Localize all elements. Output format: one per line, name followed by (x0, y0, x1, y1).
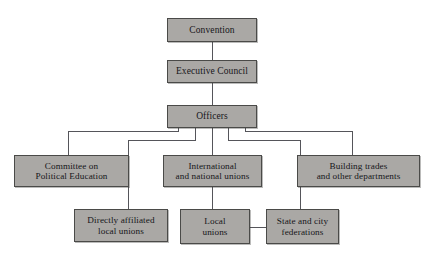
node-officers-label: Officers (168, 111, 256, 122)
node-committee-political-education[interactable]: Committee on Political Education (14, 155, 129, 187)
node-directly-affiliated-local-unions[interactable]: Directly affiliated local unions (74, 209, 168, 242)
org-chart: Convention Executive Council Officers Co… (0, 0, 434, 254)
node-state-city-federations-label: State and city federations (267, 216, 338, 237)
edge-officers-cope (68, 128, 178, 155)
node-state-city-federations[interactable]: State and city federations (266, 209, 339, 244)
node-building-trades-other-departments[interactable]: Building trades and other departments (297, 155, 420, 187)
node-committee-political-education-label: Committee on Political Education (15, 161, 128, 182)
edge-officers-building-trades (245, 128, 352, 155)
node-executive-council[interactable]: Executive Council (167, 60, 257, 83)
node-building-trades-other-departments-label: Building trades and other departments (298, 161, 419, 182)
node-convention[interactable]: Convention (167, 18, 257, 42)
node-convention-label: Convention (168, 25, 256, 36)
node-executive-council-label: Executive Council (168, 66, 256, 77)
node-officers[interactable]: Officers (167, 105, 257, 128)
node-international-national-unions[interactable]: International and national unions (163, 155, 262, 187)
node-local-unions[interactable]: Local unions (180, 209, 250, 244)
node-directly-affiliated-local-unions-label: Directly affiliated local unions (75, 215, 167, 236)
node-local-unions-label: Local unions (181, 216, 249, 237)
node-international-national-unions-label: International and national unions (164, 161, 261, 182)
